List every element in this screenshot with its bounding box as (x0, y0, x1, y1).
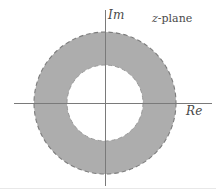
z-plane-figure: Im Re z-plane (0, 0, 216, 192)
imaginary-axis-label: Im (108, 8, 125, 22)
figure-bottom-rule (0, 188, 216, 189)
z-plane-label: z-plane (152, 12, 192, 25)
z-plane-suffix: -plane (158, 12, 192, 25)
real-axis-label: Re (186, 104, 203, 118)
complex-plane-canvas (0, 0, 216, 192)
